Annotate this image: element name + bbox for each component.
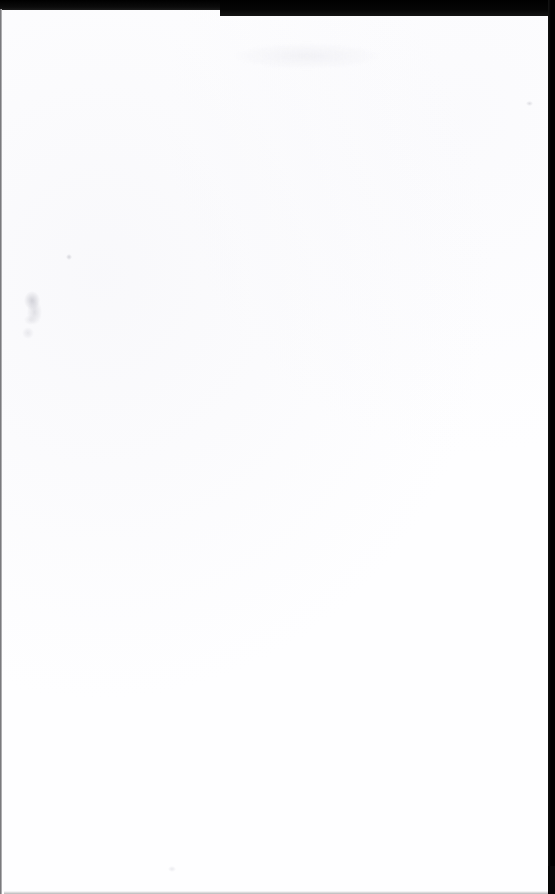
paper-rounded-corner	[2, 9, 226, 25]
page-content-area	[26, 35, 524, 868]
top-dark-band-right-section	[220, 0, 555, 16]
scan-artifact-speck-upper-right	[526, 101, 533, 106]
scanned-page-frame	[0, 0, 555, 894]
paper-sheet	[2, 9, 548, 894]
left-edge-line	[0, 9, 2, 894]
right-dark-strip	[548, 0, 555, 866]
